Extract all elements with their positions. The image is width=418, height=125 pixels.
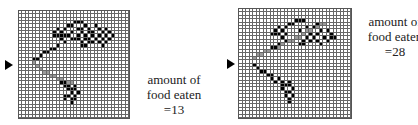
panel-1: amount of food eaten =13 [0,0,210,125]
caption-line-2: food eaten [355,29,418,44]
food-grid [238,8,352,119]
entry-arrow-icon [227,59,235,69]
caption-line-1: amount of [355,14,418,29]
caption-line-3: =28 [355,44,418,59]
grid-cell [126,115,129,118]
caption-line-3: =13 [134,102,214,117]
grid-cell [348,115,352,118]
entry-arrow-icon [5,60,13,70]
caption-line-1: amount of [134,72,214,87]
food-eaten-caption: amount of food eaten =13 [134,72,214,117]
food-eaten-caption: amount of food eaten =28 [355,14,418,59]
caption-line-2: food eaten [134,87,214,102]
panel-2: amount of food eaten =28 [210,0,418,125]
food-grid [18,10,130,119]
